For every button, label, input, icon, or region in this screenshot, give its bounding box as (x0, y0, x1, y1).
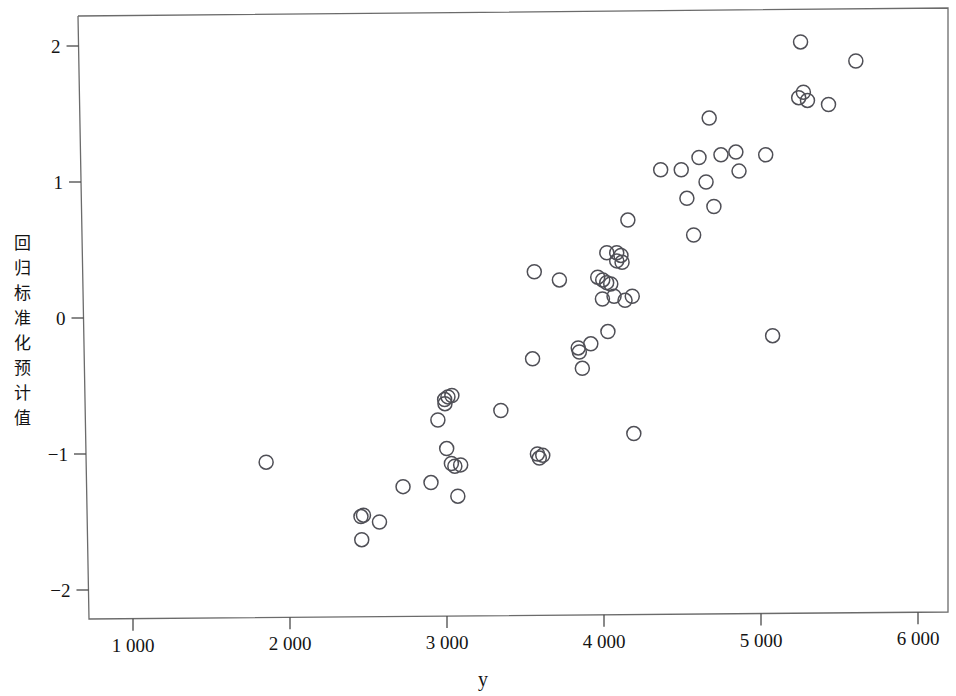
data-point (431, 413, 445, 427)
data-point (372, 515, 386, 529)
chart-canvas: 1 0002 0003 0004 0005 0006 000 210−1−2 y (0, 0, 956, 696)
x-tick-label: 5 000 (740, 630, 783, 651)
data-point (680, 191, 694, 205)
x-axis-ticks: 1 0002 0003 0004 0005 0006 000 (112, 612, 940, 655)
data-point (732, 164, 746, 178)
data-point (532, 451, 546, 465)
data-point (355, 533, 369, 547)
data-point (627, 427, 641, 441)
data-point (440, 442, 454, 456)
data-point (759, 148, 773, 162)
data-point (714, 148, 728, 162)
plot-frame (78, 8, 948, 619)
data-point (800, 93, 814, 107)
data-point (699, 175, 713, 189)
data-point (259, 455, 273, 469)
x-tick-label: 3 000 (426, 632, 469, 653)
data-point (575, 361, 589, 375)
data-point (451, 489, 465, 503)
x-tick-label: 4 000 (583, 631, 626, 652)
data-point (396, 480, 410, 494)
x-tick-label: 2 000 (269, 633, 312, 654)
data-point (687, 228, 701, 242)
data-point-layer (259, 35, 863, 547)
data-point (584, 337, 598, 351)
data-point (707, 199, 721, 213)
data-point (527, 265, 541, 279)
data-point (729, 145, 743, 159)
x-tick-label: 6 000 (897, 628, 940, 649)
data-point (674, 163, 688, 177)
data-point (494, 403, 508, 417)
data-point (654, 163, 668, 177)
data-point (692, 151, 706, 165)
y-tick-label: 2 (51, 36, 61, 57)
data-point (552, 273, 566, 287)
data-point (766, 329, 780, 343)
y-tick-label: 1 (54, 172, 64, 193)
data-point (702, 111, 716, 125)
data-point (849, 54, 863, 68)
x-axis-title: y (478, 668, 488, 691)
data-point (601, 325, 615, 339)
x-tick-label: 1 000 (112, 635, 155, 656)
data-point (621, 213, 635, 227)
data-point (822, 97, 836, 111)
y-axis-ticks: 210−1−2 (48, 36, 89, 601)
data-point (444, 457, 458, 471)
data-point (794, 35, 808, 49)
data-point (424, 476, 438, 490)
scatter-plot-figure: 回归标准化预计值 1 0002 0003 0004 0005 0006 000 … (0, 0, 956, 696)
y-tick-label: 0 (56, 308, 66, 329)
data-point (526, 352, 540, 366)
y-tick-label: −1 (48, 444, 68, 465)
y-tick-label: −2 (50, 580, 70, 601)
